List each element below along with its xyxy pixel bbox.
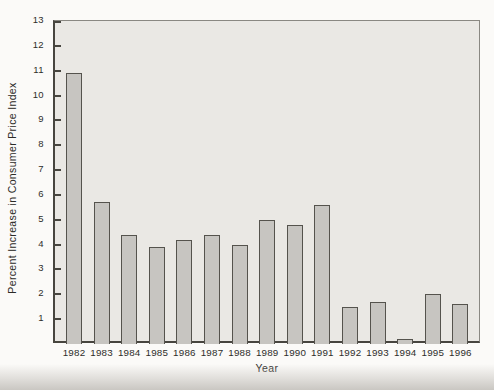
y-tick-label: 3 — [18, 262, 44, 273]
y-tick-mark — [55, 169, 61, 171]
bar-1994 — [397, 339, 413, 344]
y-tick-label: 13 — [18, 14, 44, 25]
bar-1995 — [425, 294, 441, 344]
bar-1987 — [204, 235, 220, 344]
y-tick-mark — [55, 70, 61, 72]
y-tick-mark — [55, 268, 61, 270]
y-tick-mark — [55, 45, 61, 47]
y-tick-label: 10 — [18, 89, 44, 100]
y-tick-mark — [55, 21, 61, 23]
bar-1990 — [287, 225, 303, 344]
x-tick-label: 1994 — [390, 347, 420, 358]
y-tick-mark — [55, 244, 61, 246]
y-tick-label: 5 — [18, 213, 44, 224]
y-tick-mark — [55, 95, 61, 97]
x-tick-label: 1984 — [114, 347, 144, 358]
bar-1988 — [232, 245, 248, 344]
y-tick-label: 6 — [18, 188, 44, 199]
y-tick-label: 2 — [18, 287, 44, 298]
x-tick-label: 1989 — [252, 347, 282, 358]
bar-1991 — [314, 205, 330, 344]
bar-1983 — [94, 202, 110, 344]
y-tick-label: 7 — [18, 163, 44, 174]
bar-1996 — [452, 304, 468, 344]
bar-1985 — [149, 247, 165, 344]
x-tick-label: 1988 — [225, 347, 255, 358]
y-tick-mark — [55, 144, 61, 146]
x-tick-label: 1991 — [307, 347, 337, 358]
x-tick-label: 1995 — [418, 347, 448, 358]
x-tick-label: 1993 — [363, 347, 393, 358]
y-tick-mark — [55, 119, 61, 121]
cpi-bar-chart-figure: Percent Increase in Consumer Price Index… — [0, 0, 494, 390]
plot-area — [53, 20, 480, 343]
y-tick-label: 12 — [18, 39, 44, 50]
x-tick-label: 1992 — [335, 347, 365, 358]
y-tick-mark — [55, 293, 61, 295]
x-tick-label: 1986 — [169, 347, 199, 358]
bar-1992 — [342, 307, 358, 344]
bar-1989 — [259, 220, 275, 344]
x-tick-label: 1983 — [87, 347, 117, 358]
y-tick-mark — [55, 219, 61, 221]
x-axis-title: Year — [142, 362, 392, 374]
y-tick-label: 11 — [18, 64, 44, 75]
y-tick-label: 4 — [18, 238, 44, 249]
bar-1982 — [66, 73, 82, 344]
x-tick-label: 1990 — [280, 347, 310, 358]
x-tick-label: 1987 — [197, 347, 227, 358]
x-tick-label: 1996 — [445, 347, 475, 358]
y-tick-label: 9 — [18, 113, 44, 124]
bar-1986 — [176, 240, 192, 344]
x-tick-label: 1985 — [142, 347, 172, 358]
y-tick-label: 1 — [18, 312, 44, 323]
bar-1984 — [121, 235, 137, 344]
y-tick-mark — [55, 318, 61, 320]
bar-1993 — [370, 302, 386, 344]
y-tick-label: 8 — [18, 138, 44, 149]
y-tick-mark — [55, 194, 61, 196]
x-tick-label: 1982 — [59, 347, 89, 358]
